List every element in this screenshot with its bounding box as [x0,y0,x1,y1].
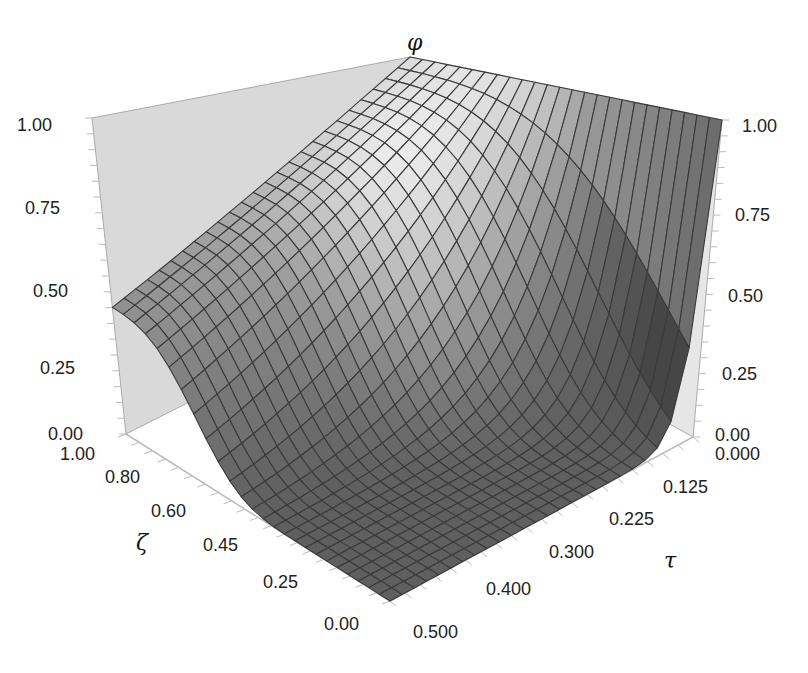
tau-tick-0.225: 0.225 [609,510,654,528]
tau-tick-0.000: 0.000 [715,445,760,463]
zeta-tick-0.80: 0.80 [105,468,140,486]
z-tick-left-0.50: 0.50 [33,282,68,300]
tau-tick-0.300: 0.300 [549,543,594,561]
zeta-tick-0.00: 0.00 [324,615,359,633]
tau-axis-title: τ [664,548,676,573]
phi-axis-title: φ [407,30,422,55]
tau-tick-0.400: 0.400 [486,580,531,598]
z-tick-right-0.00: 0.00 [715,426,750,444]
tau-tick-0.500: 0.500 [413,623,458,641]
z-tick-right-0.50: 0.50 [728,287,763,305]
zeta-tick-1.00: 1.00 [60,445,95,463]
zeta-axis-title: ζ [136,530,148,555]
zeta-tick-0.45: 0.45 [203,536,238,554]
z-tick-right-0.75: 0.75 [735,206,770,224]
z-tick-right-0.25: 0.25 [722,365,757,383]
z-tick-left-0.00: 0.00 [48,425,83,443]
tau-tick-0.125: 0.125 [663,478,708,496]
z-tick-left-0.25: 0.25 [40,359,75,377]
z-tick-left-0.75: 0.75 [25,199,60,217]
surface-plot [0,0,808,673]
z-tick-left-1.00: 1.00 [17,116,52,134]
zeta-tick-0.60: 0.60 [151,502,186,520]
z-tick-right-1.00: 1.00 [742,117,777,135]
zeta-tick-0.25: 0.25 [263,573,298,591]
